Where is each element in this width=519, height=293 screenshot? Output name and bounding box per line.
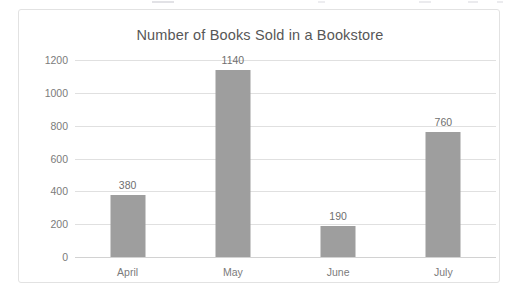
x-axis-category-label: July — [434, 266, 453, 278]
y-axis-tick-label: 1200 — [45, 54, 68, 66]
bar-group: 380April — [75, 60, 180, 257]
y-axis-tick-label: 0 — [62, 251, 68, 263]
x-axis-category-label: May — [223, 266, 243, 278]
y-axis-tick-label: 800 — [50, 120, 68, 132]
axis-baseline: 0 — [75, 257, 496, 258]
bar[interactable] — [215, 70, 250, 257]
y-axis-tick-label: 400 — [50, 185, 68, 197]
chart-title: Number of Books Sold in a Bookstore — [19, 27, 501, 43]
bar-value-label: 760 — [435, 116, 453, 128]
bar[interactable] — [426, 132, 461, 257]
plot-area: 120010008006004002000380April1140May190J… — [75, 60, 496, 257]
bar-value-label: 190 — [329, 210, 347, 222]
bar-value-label: 1140 — [222, 54, 245, 66]
bar[interactable] — [321, 226, 356, 257]
x-axis-category-label: April — [117, 266, 138, 278]
bar-value-label: 380 — [119, 179, 137, 191]
y-axis-tick-label: 200 — [50, 218, 68, 230]
bar-group: 190June — [286, 60, 391, 257]
bar-group: 760July — [391, 60, 496, 257]
bar[interactable] — [110, 195, 145, 257]
bar-group: 1140May — [180, 60, 285, 257]
cropped-edge-artifact — [0, 0, 519, 7]
y-axis-tick-label: 1000 — [45, 87, 68, 99]
y-axis-tick-label: 600 — [50, 153, 68, 165]
chart-container: Number of Books Sold in a Bookstore 1200… — [18, 9, 500, 283]
x-axis-category-label: June — [327, 266, 350, 278]
